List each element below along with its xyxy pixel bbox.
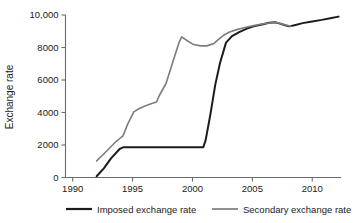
y-tick-label-4000: 4000: [37, 107, 58, 118]
y-tick-label-8000: 8000: [37, 42, 58, 53]
x-tick-label-2010: 2010: [302, 183, 323, 194]
y-axis-title: Exchange rate: [4, 64, 15, 129]
y-tick-label-10000: 10,000: [29, 9, 58, 20]
exchange-rate-line-chart: 0200040006000800010,000 1990199520002005…: [0, 0, 358, 223]
y-tick-label-6000: 6000: [37, 74, 58, 85]
x-tick-label-2005: 2005: [242, 183, 263, 194]
chart-figure: 0200040006000800010,000 1990199520002005…: [0, 0, 358, 223]
legend-label-secondary: Secondary exchange rate: [243, 204, 351, 215]
x-tick-label-1995: 1995: [122, 183, 143, 194]
x-tick-label-1990: 1990: [62, 183, 83, 194]
y-tick-label-2000: 2000: [37, 139, 58, 150]
y-tick-label-0: 0: [53, 172, 58, 183]
legend-label-imposed: Imposed exchange rate: [97, 204, 196, 215]
x-tick-label-2000: 2000: [182, 183, 203, 194]
